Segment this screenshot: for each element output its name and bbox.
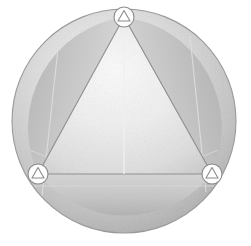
- disc-illustration: [0, 0, 251, 246]
- vertex-badge-bottom-left[interactable]: [28, 164, 48, 184]
- vertex-badge-bottom-right[interactable]: [202, 164, 222, 184]
- vertex-badge-top[interactable]: [114, 7, 134, 27]
- image-canvas: Circular reflector disc with triangular …: [0, 0, 251, 246]
